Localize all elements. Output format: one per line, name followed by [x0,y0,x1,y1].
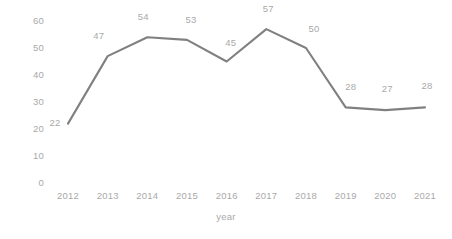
data-point-label: 28 [422,81,433,91]
x-axis-tick-label: 2019 [335,190,357,202]
x-axis-tick-label: 2020 [374,190,396,202]
x-axis-tick-label: 2018 [295,190,317,202]
data-point-label: 54 [138,12,149,22]
series-line-polyline [68,29,425,124]
data-point-label: 45 [225,38,236,48]
data-point-label: 47 [93,31,104,41]
x-axis-tick-label: 2012 [57,190,79,202]
line-chart: 0102030405060 22475453455750282728 20122… [0,0,452,239]
x-axis-tick-label: 2015 [176,190,198,202]
data-point-label: 57 [263,4,274,14]
x-axis-tick-label: 2013 [97,190,119,202]
x-axis-tick-label: 2014 [136,190,158,202]
x-axis-title: year [0,211,452,222]
data-point-label: 22 [50,118,61,128]
x-axis-tick-label: 2021 [414,190,436,202]
data-point-label: 28 [345,82,356,92]
x-axis: 2012201320142015201620172018201920202021 [0,190,452,204]
data-point-label: 50 [309,24,320,34]
data-point-label: 53 [186,15,197,25]
x-axis-tick-label: 2016 [216,190,238,202]
data-point-label: 27 [382,84,393,94]
x-axis-tick-label: 2017 [255,190,277,202]
